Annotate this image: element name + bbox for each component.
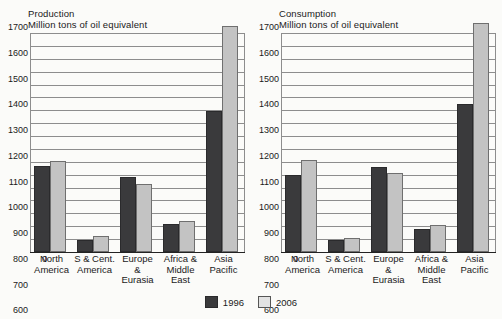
production-group-4 (159, 33, 202, 252)
consumption-panel-title: Consumption (279, 8, 336, 19)
production-bar-5-2006 (222, 26, 238, 252)
consumption-ytick-1200: 1200 (251, 152, 279, 161)
production-bar-2-2006 (93, 236, 109, 252)
production-bar-1-1996 (34, 166, 50, 252)
consumption-plot-area: 1700160015001400130012001100100090080070… (281, 33, 496, 252)
production-ytick-1100: 1100 (0, 178, 28, 187)
consumption-xlabel-1: North America (281, 254, 324, 275)
consumption-ytick-1700: 1700 (251, 23, 279, 32)
production-xlabel-3: Europe & Eurasia (116, 254, 159, 286)
production-bar-1-2006 (50, 161, 66, 252)
legend-item-2006: 2006 (258, 296, 297, 308)
consumption-ytick-1400: 1400 (251, 100, 279, 109)
consumption-bar-3-2006 (387, 173, 403, 252)
consumption-ytick-700: 700 (251, 281, 279, 290)
production-group-1 (30, 33, 73, 252)
consumption-bar-groups (281, 33, 496, 252)
production-group-3 (116, 33, 159, 252)
consumption-panel: Consumption Million tons of oil equivale… (251, 0, 502, 290)
consumption-group-1 (281, 33, 324, 252)
consumption-bar-5-1996 (457, 104, 473, 252)
production-bar-2-1996 (77, 240, 93, 252)
production-panel-subtitle: Million tons of oil equivalent (28, 19, 147, 30)
consumption-ytick-1100: 1100 (251, 178, 279, 187)
production-ytick-900: 900 (0, 229, 28, 238)
consumption-xlabel-4: Africa & Middle East (410, 254, 453, 286)
consumption-bar-4-1996 (414, 229, 430, 252)
production-ytick-1200: 1200 (0, 152, 28, 161)
legend-label-2006: 2006 (276, 297, 297, 308)
chart-legend: 19962006 (0, 296, 502, 308)
consumption-xlabel-3: Europe & Eurasia (367, 254, 410, 286)
production-ytick-1000: 1000 (0, 203, 28, 212)
consumption-ytick-900: 900 (251, 229, 279, 238)
production-ytick-1300: 1300 (0, 126, 28, 135)
consumption-bar-4-2006 (430, 225, 446, 252)
production-ytick-1600: 1600 (0, 49, 28, 58)
consumption-bar-3-1996 (371, 167, 387, 252)
production-ytick-1400: 1400 (0, 100, 28, 109)
production-bar-groups (30, 33, 245, 252)
production-bar-3-1996 (120, 177, 136, 252)
consumption-xlabel-2: S & Cent. America (324, 254, 367, 275)
production-ytick-1500: 1500 (0, 75, 28, 84)
production-x-axis-labels: 0 North AmericaS & Cent. AmericaEurope &… (30, 254, 245, 294)
consumption-bar-5-2006 (473, 23, 489, 252)
production-bar-4-1996 (163, 224, 179, 252)
production-xlabel-4: Africa & Middle East (159, 254, 202, 286)
legend-swatch-2006 (258, 296, 271, 308)
consumption-group-5 (453, 33, 496, 252)
production-ytick-800: 800 (0, 255, 28, 264)
production-ytick-1700: 1700 (0, 23, 28, 32)
consumption-ytick-1300: 1300 (251, 126, 279, 135)
consumption-bar-1-1996 (285, 175, 301, 252)
consumption-bar-1-2006 (301, 160, 317, 252)
legend-swatch-1996 (205, 296, 218, 308)
consumption-xlabel-5: Asia Pacific (453, 254, 496, 275)
consumption-ytick-1600: 1600 (251, 49, 279, 58)
production-bar-3-2006 (136, 184, 152, 252)
production-panel-title: Production (28, 8, 74, 19)
production-bar-4-2006 (179, 221, 195, 252)
legend-label-1996: 1996 (223, 297, 244, 308)
consumption-ytick-800: 800 (251, 255, 279, 264)
consumption-bar-2-1996 (328, 240, 344, 252)
consumption-ytick-1000: 1000 (251, 203, 279, 212)
consumption-ytick-1500: 1500 (251, 75, 279, 84)
chart-page: Production Million tons of oil equivalen… (0, 0, 502, 319)
consumption-group-3 (367, 33, 410, 252)
production-bar-5-1996 (206, 111, 222, 252)
consumption-group-4 (410, 33, 453, 252)
production-plot-area: 1700160015001400130012001100100090080070… (30, 33, 245, 252)
legend-item-1996: 1996 (205, 296, 244, 308)
consumption-group-2 (324, 33, 367, 252)
consumption-panel-subtitle: Million tons of oil equivalent (279, 19, 398, 30)
consumption-x-axis-labels: 0 North AmericaS & Cent. AmericaEurope &… (281, 254, 496, 294)
production-xlabel-5: Asia Pacific (202, 254, 245, 275)
production-xlabel-1: North America (30, 254, 73, 275)
production-ytick-700: 700 (0, 281, 28, 290)
production-group-5 (202, 33, 245, 252)
production-panel: Production Million tons of oil equivalen… (0, 0, 251, 290)
consumption-bar-2-2006 (344, 238, 360, 252)
production-group-2 (73, 33, 116, 252)
production-xlabel-2: S & Cent. America (73, 254, 116, 275)
